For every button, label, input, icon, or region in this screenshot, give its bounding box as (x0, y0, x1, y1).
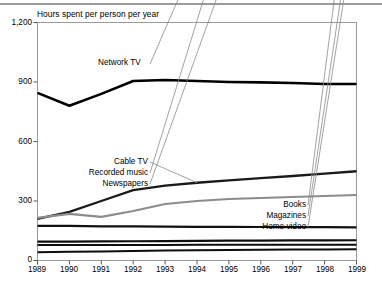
y-tick-label-300: 300 (2, 196, 32, 205)
chart-figure: Hours spent per person per year 1,200 90… (0, 0, 382, 285)
y-axis-ticks (34, 23, 38, 261)
x-tick-label-1992: 1992 (116, 265, 150, 274)
series-label-home-video: Home video (216, 222, 306, 231)
x-tick-label-1994: 1994 (180, 265, 214, 274)
series-label-recorded-music: Recorded music (58, 168, 148, 177)
y-tick-label-0: 0 (2, 255, 32, 264)
x-axis-ticks (38, 261, 357, 265)
y-tick-label-900: 900 (2, 77, 32, 86)
x-tick-label-1998: 1998 (308, 265, 342, 274)
x-tick-label-1996: 1996 (244, 265, 278, 274)
y-tick-label-600: 600 (2, 137, 32, 146)
series-label-newspapers: Newspapers (58, 179, 148, 188)
series-label-books: Books (216, 200, 306, 209)
x-tick-label-1995: 1995 (212, 265, 246, 274)
x-tick-label-1993: 1993 (148, 265, 182, 274)
series-label-network-tv: Network TV (98, 58, 141, 67)
series-label-cable-tv: Cable TV (58, 157, 148, 166)
x-tick-label-1997: 1997 (276, 265, 310, 274)
x-tick-label-1990: 1990 (52, 265, 86, 274)
x-tick-label-1989: 1989 (20, 265, 54, 274)
series-label-magazines: Magazines (216, 211, 306, 220)
x-tick-label-1999: 1999 (340, 265, 374, 274)
x-tick-label-1991: 1991 (84, 265, 118, 274)
chart-plot-area (0, 0, 382, 285)
y-tick-label-1200: 1,200 (2, 18, 32, 27)
